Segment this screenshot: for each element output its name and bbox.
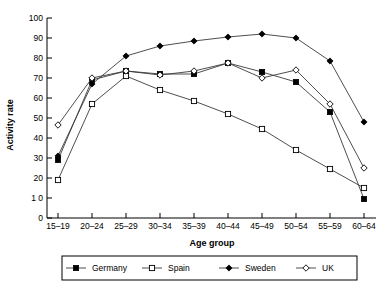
legend-label: Spain (168, 263, 190, 273)
y-tick-label: 70 (34, 73, 44, 83)
data-point (361, 196, 366, 201)
y-tick-label: 30 (34, 153, 44, 163)
y-tick-label: 50 (34, 113, 44, 123)
data-point (327, 166, 332, 171)
y-tick-label: 20 (34, 173, 44, 183)
y-tick-label: 1 0 (31, 193, 43, 203)
series-line (58, 63, 364, 199)
data-point (293, 147, 298, 152)
data-point (55, 177, 60, 182)
data-point (259, 31, 265, 37)
data-point (191, 98, 196, 103)
legend-label: Sweden (245, 263, 276, 273)
x-axis-ticks: 15–1920–2425–2930–3435–3940–4445–4950–54… (46, 213, 376, 231)
data-point (327, 109, 332, 114)
data-point (259, 126, 264, 131)
series-layer (55, 31, 367, 202)
data-point (327, 58, 333, 64)
x-tick-label: 25–29 (114, 221, 138, 231)
data-point (361, 119, 367, 125)
x-tick-label: 40–44 (216, 221, 240, 231)
x-tick-label: 50–54 (284, 221, 308, 231)
data-point (225, 111, 230, 116)
x-tick-label: 55–59 (318, 221, 342, 231)
series-line (58, 76, 364, 188)
x-tick-label: 45–49 (250, 221, 274, 231)
y-tick-label: 100 (29, 13, 43, 23)
chart-canvas: Activity rate 01 02030405060708090100 15… (0, 0, 388, 288)
y-tick-label: 80 (34, 53, 44, 63)
data-point (89, 101, 94, 106)
series-line (58, 34, 364, 156)
y-tick-label: 90 (34, 33, 44, 43)
data-point (293, 35, 299, 41)
x-tick-label: 20–24 (80, 221, 104, 231)
series-spain (55, 73, 366, 190)
data-point (361, 165, 367, 171)
x-tick-label: 60–64 (352, 221, 376, 231)
data-point (361, 185, 366, 190)
x-tick-label: 30–34 (148, 221, 172, 231)
series-germany (55, 60, 366, 201)
x-tick-label: 15–19 (46, 221, 70, 231)
y-axis-ticks: 01 02030405060708090100 (29, 13, 52, 223)
y-tick-label: 40 (34, 133, 44, 143)
data-point (293, 79, 298, 84)
data-point (259, 69, 264, 74)
x-tick-label: 35–39 (182, 221, 206, 231)
data-point (157, 87, 162, 92)
legend-marker-filled-square (73, 265, 78, 270)
y-tick-label: 0 (38, 213, 43, 223)
series-line (58, 63, 364, 168)
series-sweden (55, 31, 367, 159)
y-tick-label: 60 (34, 93, 44, 103)
data-point (157, 43, 163, 49)
x-axis-title: Age group (190, 238, 235, 248)
activity-rate-line-chart: Activity rate 01 02030405060708090100 15… (0, 0, 388, 288)
data-point (191, 38, 197, 44)
legend-label: UK (322, 263, 334, 273)
data-point (55, 122, 61, 128)
legend-marker-open-square (149, 265, 154, 270)
data-point (259, 75, 265, 81)
legend-label: Germany (92, 263, 128, 273)
data-point (225, 34, 231, 40)
y-axis-title: Activity rate (5, 99, 15, 151)
